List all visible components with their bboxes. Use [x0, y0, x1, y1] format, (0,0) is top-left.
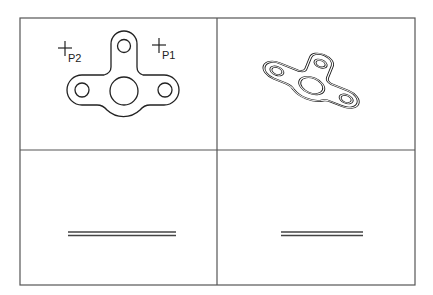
- gasket-views-diagram: P2 P1: [0, 0, 433, 295]
- top-hole: [118, 40, 131, 53]
- left-hole: [75, 83, 89, 97]
- panel-bottom-left-edge-view: [68, 232, 176, 236]
- point-p2: P2: [58, 41, 81, 64]
- panel-top-right-3d-view: [259, 36, 370, 117]
- center-hole: [110, 77, 138, 105]
- panel-bottom-right-edge-view: [281, 232, 363, 236]
- gasket-outline: [67, 31, 179, 117]
- right-hole: [158, 83, 172, 97]
- p2-label: P2: [68, 52, 81, 64]
- gasket-3d: [259, 36, 370, 117]
- p1-label: P1: [162, 49, 175, 61]
- panel-top-left-plan-view: P2 P1: [58, 31, 179, 117]
- point-p1: P1: [152, 38, 175, 61]
